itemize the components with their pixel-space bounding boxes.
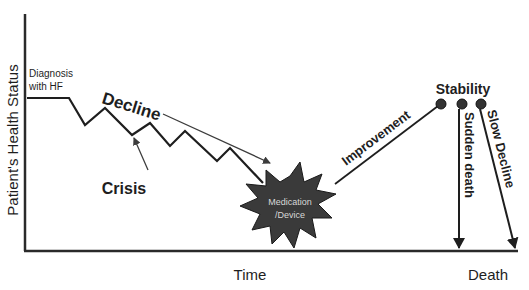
decline-label: Decline	[100, 89, 163, 125]
stability-dot-sudden	[457, 99, 467, 109]
stability-dots	[436, 99, 486, 109]
crisis-arrow	[134, 138, 148, 170]
stability-dot-improvement	[436, 99, 446, 109]
intervention-label-line2: /Device	[275, 210, 305, 220]
y-axis-label: Patient's Health Status	[4, 64, 21, 215]
stability-label: Stability	[436, 81, 491, 97]
sudden-death-label: Sudden death	[462, 112, 477, 198]
stability-dot-slow	[476, 99, 486, 109]
improvement-line	[335, 106, 438, 184]
diagnosis-label-line2: with HF	[28, 81, 63, 92]
death-label: Death	[468, 266, 508, 283]
improvement-label: Improvement	[339, 107, 414, 169]
diagnosis-label-line1: Diagnosis	[29, 68, 73, 79]
intervention-label-line1: Medication	[268, 197, 312, 207]
x-axis-label: Time	[234, 266, 267, 283]
heart-failure-trajectory-diagram: Patient's Health Status Time Death Diagn…	[0, 0, 529, 290]
crisis-label: Crisis	[102, 180, 147, 197]
